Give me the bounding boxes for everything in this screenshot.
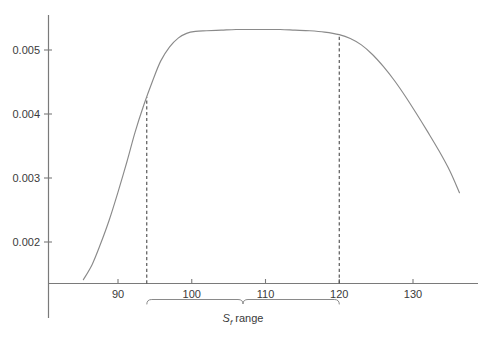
x-tick-label: 90 xyxy=(112,288,124,300)
x-tick-label: 110 xyxy=(257,288,275,300)
y-tick-label: 0.003 xyxy=(12,172,40,184)
sf-range-label-text: range xyxy=(232,312,263,324)
x-tick-label: 120 xyxy=(330,288,348,300)
y-tick-label: 0.004 xyxy=(12,108,40,120)
chart-figure: 0.0020.0030.0040.005 90100110120130 Sf r… xyxy=(0,0,500,345)
x-tick-label: 130 xyxy=(404,288,422,300)
chart-background xyxy=(0,0,500,345)
y-tick-label: 0.002 xyxy=(12,236,40,248)
chart-canvas: 0.0020.0030.0040.005 90100110120130 Sf r… xyxy=(0,0,500,345)
x-tick-label: 100 xyxy=(183,288,201,300)
y-tick-label: 0.005 xyxy=(12,44,40,56)
